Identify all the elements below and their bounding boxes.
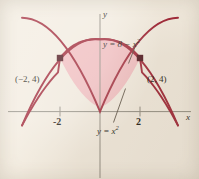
figure-canvas [0, 0, 199, 179]
intersection-marker-right [137, 55, 143, 61]
upper-curve-exponent: 2 [137, 37, 140, 44]
point-label-left: (−2, 4) [15, 75, 40, 84]
point-label-right: (2, 4) [147, 75, 167, 84]
upper-curve-equation-label: y = 8 − x2 [103, 40, 140, 49]
lower-curve-exponent: 2 [116, 124, 119, 131]
upper-curve-equation-text: y = 8 − x [103, 39, 137, 49]
x-axis-label: x [186, 113, 190, 122]
lower-curve-equation-text: y = x [97, 126, 116, 136]
intersection-marker-left [57, 55, 63, 61]
x-tick-label-pos2: 2 [136, 117, 141, 127]
x-tick-label-neg2: -2 [53, 117, 61, 127]
y-axis-label: y [103, 10, 107, 19]
parabola-region-figure: y x -2 2 (−2, 4) (2, 4) y = 8 − x2 y = x… [0, 0, 199, 179]
lower-curve-equation-label: y = x2 [97, 127, 119, 136]
